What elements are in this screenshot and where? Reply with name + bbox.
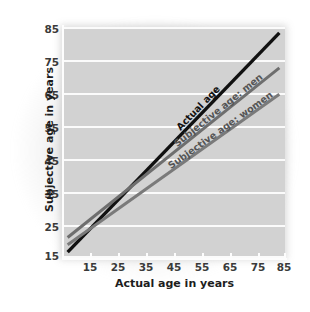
- y-axis-tick-label: 15: [44, 250, 59, 262]
- x-axis-tick-label: 65: [223, 261, 238, 273]
- y-axis-title: Subjective age in years: [43, 30, 56, 250]
- chart-screenshot: 85 75 65 55 45 35 25 15 15 25 35 45 55 6…: [0, 0, 310, 312]
- x-axis-tick-label: 15: [83, 261, 98, 273]
- x-axis-tick-label: 45: [167, 261, 182, 273]
- x-axis-tick-label: 75: [251, 261, 266, 273]
- chart-figure: 85 75 65 55 45 35 25 15 15 25 35 45 55 6…: [0, 0, 310, 312]
- x-axis-title: Actual age in years: [62, 277, 287, 290]
- x-axis-tick-label: 25: [111, 261, 126, 273]
- x-axis-tick-label: 85: [277, 261, 292, 273]
- x-axis-tick-label: 55: [195, 261, 210, 273]
- x-axis-tick-label: 35: [139, 261, 154, 273]
- x-axis-line: [62, 258, 287, 260]
